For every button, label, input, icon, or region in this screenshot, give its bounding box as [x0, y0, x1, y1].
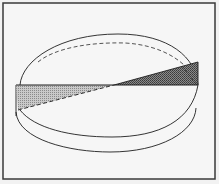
- ellipsoid-cross-section-diagram: [0, 0, 219, 184]
